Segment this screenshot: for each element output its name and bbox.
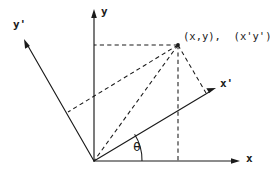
y-axis-label: y	[101, 6, 108, 17]
x-axis-arrowhead	[231, 158, 240, 164]
x-prime-axis-label: x'	[220, 78, 233, 89]
y-prime-axis-label: y'	[13, 19, 26, 30]
projection-point-to-y-prime-axis	[68, 45, 178, 112]
projection-point-to-x-prime-axis	[178, 45, 206, 93]
y-axis-arrowhead	[91, 9, 97, 18]
x-prime-axis-line	[94, 92, 210, 162]
theta-angle-label: θ	[133, 140, 141, 153]
coordinate-rotation-figure: y' y x' x (x,y), (x'y') θ	[0, 0, 278, 175]
point-coordinates-label: (x,y), (x'y')	[183, 31, 272, 42]
y-prime-axis-line	[28, 46, 94, 161]
point-marker	[176, 43, 180, 47]
x-axis-label: x	[246, 153, 253, 164]
